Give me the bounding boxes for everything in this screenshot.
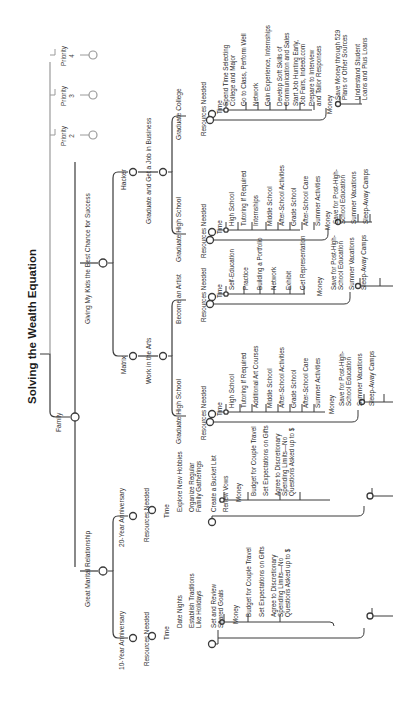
resources-needed: Resources Needed [200,268,207,322]
time-item: Date Nights [176,595,183,628]
money-item: Summer Vacations [350,171,357,224]
node-graduate-job-business: Graduate and Get a Job in Business [145,118,152,224]
money-item: Agree to Discretionary Spending Limits—N… [270,549,292,617]
money-item: Save for Post-High- School Education [330,235,344,290]
time-item: Get Representation [299,235,306,290]
time-label: Time [216,220,223,234]
node-20-year-anniversary: 20-Year Anniversary [118,488,125,547]
time-item: After-School Care [302,358,309,408]
diagram-title: Solving the Wealth Equation [26,249,38,404]
time-item: Summer Activities [314,176,321,226]
time-item: Middle School [266,186,273,226]
time-item: Additional Art Courses [252,346,259,408]
mind-map: Solving the Wealth Equation Family Great… [0,0,393,702]
node-graduate-college: Graduate College [175,88,182,140]
money-item: Summer Vacations [356,353,363,406]
node-priority-2: Priority 2 [60,126,75,146]
time-item: Go to Class, Perform Well [240,33,247,106]
time-item: Start Job Hunting Early, Job Fairs, Inde… [292,40,306,106]
node-family: Family [55,413,62,432]
resources-needed: Resources Needed [200,204,207,258]
time-item: Spend Time Selecting College and Major [222,45,236,106]
money-item: Summer Vacations [348,237,355,290]
time-label: Time [216,402,223,416]
money-item: Understand Student Loans and Plus Loans [354,38,368,100]
money-label-20y: Money [235,483,242,502]
node-10-year-anniversary: 10-Year Anniversary [118,611,125,670]
time-item: Grade School [290,369,297,408]
time-item: Middle School [266,368,273,408]
money-item: Sleep-Away Camps [360,235,367,290]
time-item: Set and Review Shared Goals [210,584,224,628]
time-item: Network [252,83,259,106]
time-item: Practice [242,267,249,290]
time-item: Tutoring If Required [240,353,247,408]
money-item: Agree to Discretionary Spending Limits—N… [274,428,296,496]
node-matrix: Matrix [120,356,127,374]
money-item: Save Money through 529 Plans or Other So… [334,30,348,100]
time-item: Organize Regular Family Gatherings [188,461,202,512]
money-label: Money [324,211,331,230]
time-item: Establish Traditions Like Holidays [188,573,202,628]
time-item: Renew Vows [222,476,229,512]
time-item: Summer Activities [314,358,321,408]
time-item: Grade School [290,187,297,226]
time-item: Gain Experience, Internships [264,25,271,106]
resources-needed: Resources Needed [200,82,207,136]
family-node [71,413,79,421]
money-label: Money [316,277,323,296]
node-hacker: Hacker [120,169,127,190]
money-item: Sleep-Away Camps [362,169,369,224]
time-item: High School [228,192,235,226]
time-item: After-School Activities [278,347,285,408]
time-item: After-School Activities [278,165,285,226]
time-item: Develop Soft Skills of Communication and… [276,32,290,106]
money-item: Set Expectations on Gifts [262,425,269,496]
money-item: Save for Post-High- School Education [338,351,352,406]
node-become-an-artist: Become an Artist [175,274,182,324]
time-item: Internships [252,195,259,226]
money-item: Set Expectations on Gifts [258,546,265,617]
time-item: High School [228,374,235,408]
node-graduate-high-school-business: Graduate High School [175,197,182,262]
node-great-marital-relationship: Great Marital Relationship [84,531,91,607]
time-label-20y: Time [163,504,170,518]
node-priority-4: Priority 4 [60,46,75,66]
time-item: Network [270,267,277,290]
money-item: Sleep-Away Camps [368,351,375,406]
node-graduate-high-school-arts: Graduate High School [175,379,182,444]
money-label: Money [326,95,333,114]
time-item: Building a Portfolio [256,237,263,290]
money-item: Save for Post-High- School Education [332,169,346,224]
time-item: After-School Care [302,176,309,226]
resources-needed-10y: Resources Needed [143,612,150,666]
time-item: Create a Bucket List [210,455,217,512]
time-item: Prepare to Interview and Tailor Response… [308,46,322,106]
time-label: Time [216,284,223,298]
money-label: Money [328,395,335,414]
money-item: Budget for Couple Travel [245,547,252,617]
money-label-10y: Money [232,605,239,624]
time-item: Self-Education [228,249,235,290]
time-item: Tutoring If Required [240,171,247,226]
time-item: Explore New Hobbies [176,451,183,512]
time-label-10y: Time [163,626,170,640]
node-giving-kids-best-chance: Giving My Kids the Best Chance for Succe… [84,193,91,324]
resources-needed-20y: Resources Needed [143,488,150,542]
node-priority-3: Priority 3 [60,86,75,106]
node-work-in-the-arts: Work in the Arts [145,338,152,384]
money-item: Budget for Couple Travel [250,426,257,496]
resources-needed: Resources Needed [200,386,207,440]
time-item: Exhibit [285,271,292,290]
